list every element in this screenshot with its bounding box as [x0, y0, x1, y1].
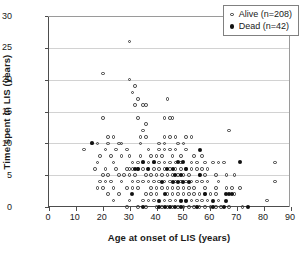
data-point-alive: [155, 173, 159, 177]
data-point-alive: [157, 161, 161, 165]
data-point-alive: [190, 161, 194, 165]
data-point-alive: [149, 186, 153, 190]
data-point-dead: [160, 180, 164, 184]
data-point-alive: [190, 135, 194, 139]
data-point-alive: [195, 161, 199, 165]
data-point-dead: [179, 205, 183, 209]
data-point-alive: [98, 180, 102, 184]
data-point-alive: [82, 148, 86, 152]
data-point-dead: [130, 192, 134, 196]
x-axis-tick-label: 20: [90, 213, 114, 222]
data-point-alive: [211, 161, 215, 165]
data-point-alive: [168, 161, 172, 165]
x-axis-tick: [291, 207, 292, 211]
data-point-alive: [200, 154, 204, 158]
data-point-alive: [96, 142, 100, 146]
data-point-alive: [166, 173, 170, 177]
data-point-alive: [200, 180, 204, 184]
data-point-alive: [101, 173, 105, 177]
gridline: [49, 175, 290, 176]
x-axis-tick: [49, 207, 50, 211]
gridline: [49, 80, 290, 81]
y-axis-tick: [45, 143, 49, 144]
data-point-dead: [163, 205, 167, 209]
data-point-alive: [144, 192, 148, 196]
data-point-alive: [176, 192, 180, 196]
data-point-alive: [233, 173, 237, 177]
gridline: [49, 112, 290, 113]
data-point-alive: [171, 192, 175, 196]
x-axis-tick: [103, 207, 104, 211]
legend-label-dead: Dead (n=42): [239, 22, 289, 31]
legend: Alive (n=208) Dead (n=42): [223, 5, 299, 36]
open-circle-icon: [228, 13, 237, 17]
data-point-dead: [157, 199, 161, 203]
data-point-dead: [198, 173, 202, 177]
data-point-alive: [195, 199, 199, 203]
data-point-alive: [157, 167, 161, 171]
data-point-dead: [203, 192, 207, 196]
data-point-alive: [155, 154, 159, 158]
data-point-alive: [139, 135, 143, 139]
data-point-alive: [182, 186, 186, 190]
data-point-alive: [144, 173, 148, 177]
x-axis-tick: [264, 207, 265, 211]
data-point-alive: [157, 142, 161, 146]
data-point-alive: [117, 173, 121, 177]
data-point-alive: [192, 186, 196, 190]
data-point-alive: [128, 173, 132, 177]
y-axis-tick: [45, 175, 49, 176]
plot-area: [48, 16, 290, 207]
data-point-alive: [222, 161, 226, 165]
data-point-alive: [217, 161, 221, 165]
data-point-alive: [184, 148, 188, 152]
data-point-alive: [125, 186, 129, 190]
data-point-alive: [139, 142, 143, 146]
data-point-alive: [136, 186, 140, 190]
data-point-alive: [98, 154, 102, 158]
data-point-alive: [106, 142, 110, 146]
data-point-alive: [174, 135, 178, 139]
data-point-alive: [109, 154, 113, 158]
data-point-dead: [171, 167, 175, 171]
data-point-dead: [181, 160, 185, 164]
data-point-alive: [125, 148, 129, 152]
data-point-alive: [141, 180, 145, 184]
data-point-alive: [141, 199, 145, 203]
x-axis-title: Age at onset of LIS (years): [48, 232, 290, 243]
data-point-dead: [224, 199, 228, 203]
data-point-alive: [133, 84, 137, 88]
data-point-alive: [133, 103, 137, 107]
data-point-alive: [179, 154, 183, 158]
data-point-dead: [176, 180, 180, 184]
data-point-alive: [163, 199, 167, 203]
data-point-alive: [152, 167, 156, 171]
data-point-alive: [171, 116, 175, 120]
data-point-alive: [114, 148, 118, 152]
data-point-alive: [136, 161, 140, 165]
data-point-alive: [203, 186, 207, 190]
data-point-alive: [230, 186, 234, 190]
data-point-alive: [192, 154, 196, 158]
data-point-alive: [227, 205, 231, 209]
data-point-alive: [163, 148, 167, 152]
data-point-alive: [195, 167, 199, 171]
x-axis-tick-label: 40: [144, 213, 168, 222]
data-point-alive: [131, 161, 135, 165]
x-axis-tick-label: 90: [278, 213, 302, 222]
data-point-alive: [206, 180, 210, 184]
data-point-alive: [176, 186, 180, 190]
data-point-alive: [171, 154, 175, 158]
data-point-dead: [211, 205, 215, 209]
data-point-dead: [136, 167, 140, 171]
data-point-alive: [265, 199, 269, 203]
data-point-alive: [273, 180, 277, 184]
data-point-dead: [184, 167, 188, 171]
data-point-alive: [128, 40, 132, 44]
y-axis-title: Time spent in LIS (years): [1, 54, 12, 169]
data-point-alive: [217, 180, 221, 184]
data-point-alive: [106, 192, 110, 196]
data-point-dead: [146, 167, 150, 171]
data-point-alive: [147, 199, 151, 203]
data-point-alive: [184, 135, 188, 139]
